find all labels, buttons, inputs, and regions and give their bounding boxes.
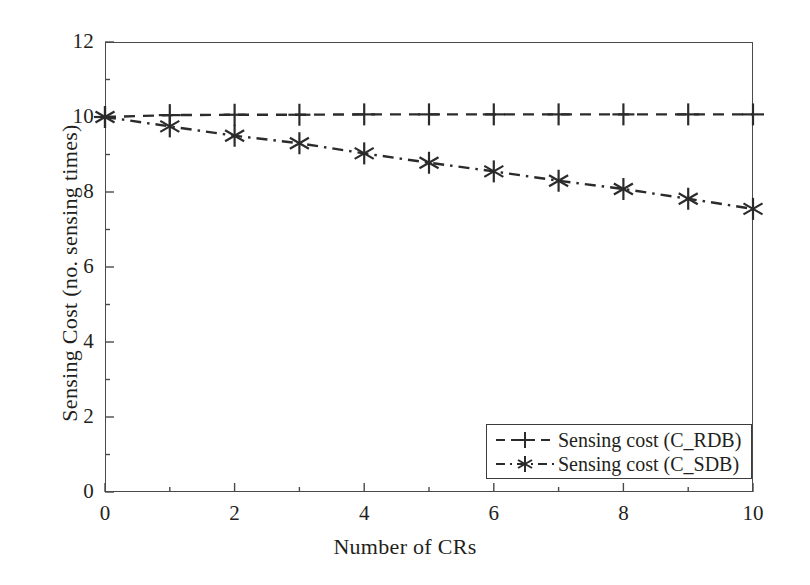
legend: Sensing cost (C_RDB) Sensing cost (C_SDB… (486, 424, 752, 479)
y-axis-title-wrap: Sensing Cost (no. sensing times) (57, 48, 83, 498)
legend-item-c-rdb: Sensing cost (C_RDB) (487, 428, 751, 452)
x-tick-label: 8 (603, 503, 643, 524)
x-axis-title: Number of CRs (0, 534, 810, 560)
x-tick-label: 10 (733, 503, 773, 524)
legend-label-c-sdb: Sensing cost (C_SDB) (556, 454, 739, 474)
x-tick-label: 4 (344, 503, 384, 524)
x-tick-label: 0 (85, 503, 125, 524)
y-axis-title: Sensing Cost (no. sensing times) (57, 124, 82, 421)
x-axis-tick-labels: 0246810 (0, 503, 810, 533)
legend-label-c-rdb: Sensing cost (C_RDB) (556, 430, 741, 450)
chart-page: 024681012 0246810 Number of CRs Sensing … (0, 0, 810, 585)
x-tick-label: 6 (474, 503, 514, 524)
legend-sample-c-rdb (494, 429, 556, 451)
legend-sample-c-sdb (494, 453, 556, 475)
x-tick-label: 2 (215, 503, 255, 524)
legend-item-c-sdb: Sensing cost (C_SDB) (487, 452, 751, 476)
